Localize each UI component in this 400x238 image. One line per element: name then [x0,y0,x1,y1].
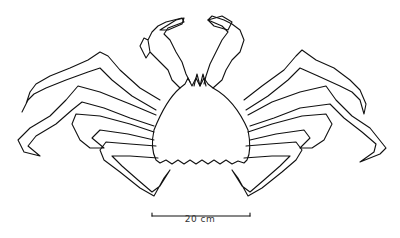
left-cheliped [140,18,190,88]
right-cheliped [204,16,244,88]
right-leg-1 [244,50,366,114]
scale-bar-label: 20 cm [160,214,240,224]
right-leg-4 [232,142,302,196]
right-leg-2 [248,86,386,162]
carapace [152,78,249,164]
left-leg-4 [100,142,170,196]
left-claw [160,18,184,30]
left-leg-1 [22,52,160,112]
crab-drawing [0,0,400,238]
crab-illustration: 20 cm [0,0,400,238]
